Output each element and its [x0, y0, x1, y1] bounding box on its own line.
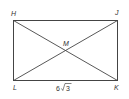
measurement-radicand: 3 — [66, 85, 70, 92]
intersection-label-m: M — [63, 40, 69, 47]
measurement-coefficient: 6 — [56, 85, 60, 92]
vertex-label-k: K — [114, 84, 119, 91]
side-length-lk: 6 3 — [56, 84, 72, 93]
vertex-label-j: J — [114, 9, 119, 16]
vertex-label-l: L — [13, 84, 17, 91]
rectangle-diagram: H J M L K 6 3 — [0, 0, 129, 99]
vertex-label-h: H — [11, 10, 17, 17]
